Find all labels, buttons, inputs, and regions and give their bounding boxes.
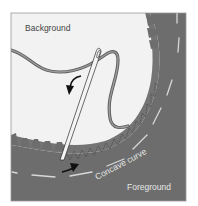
label-background: Background xyxy=(25,23,71,33)
label-foreground: Foreground xyxy=(127,182,171,192)
diagram-canvas: Background Foreground Concave curve xyxy=(0,0,198,206)
applique-diagram: Background Foreground Concave curve xyxy=(0,0,198,206)
